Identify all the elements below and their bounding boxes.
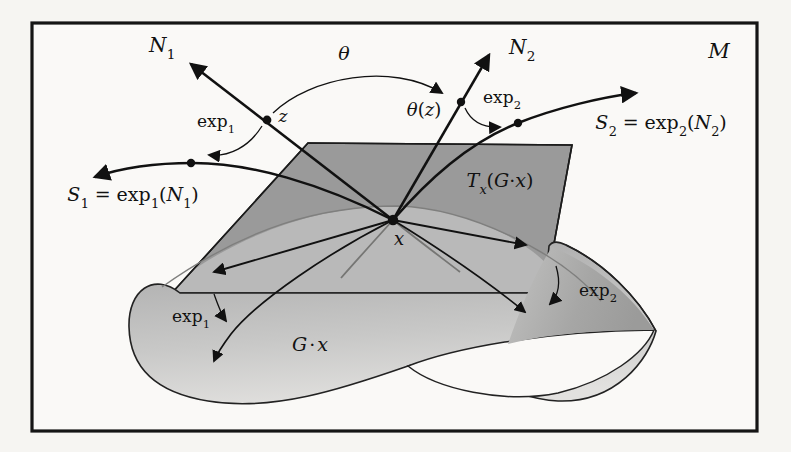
z-label: z: [279, 108, 288, 125]
manifold-label: M: [708, 41, 730, 62]
exp1-map-label: exp1: [197, 113, 235, 134]
point-theta-z: [457, 98, 465, 106]
s1-equation-label: S1 = exp1(N1): [67, 185, 198, 209]
point-on-s2: [514, 119, 522, 127]
point-on-s1: [187, 159, 195, 167]
point-z: [263, 116, 272, 125]
figure-canvas: M N1 N2 θ θ(z) z x exp1 exp2 S1 = exp1(N…: [0, 0, 791, 452]
x-label: x: [394, 230, 404, 248]
exp1-surface-label: exp1: [172, 308, 210, 329]
exp2-surface-label: exp2: [579, 282, 617, 303]
exp2-map-label: exp2: [483, 89, 521, 110]
diagram-drawing: [0, 0, 791, 452]
s2-equation-label: S2 = exp2(N2): [595, 113, 726, 137]
theta-z-label: θ(z): [407, 101, 441, 119]
point-x: [388, 215, 398, 225]
theta-label: θ: [338, 44, 349, 63]
orbit-label: G·x: [292, 335, 328, 354]
n2-label: N2: [509, 37, 535, 62]
tangent-space-label: Tx(G·x): [467, 171, 534, 195]
n1-label: N1: [149, 35, 175, 60]
